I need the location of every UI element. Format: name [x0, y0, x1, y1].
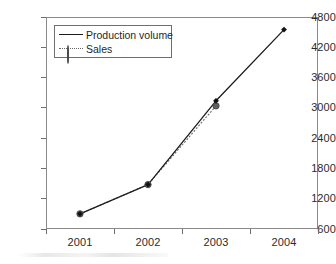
- legend-swatch-sales: [59, 43, 83, 55]
- sales-markers: [77, 103, 219, 217]
- legend-label-production-volume: Production volume: [83, 29, 173, 41]
- legend-swatch-production-volume: [59, 29, 83, 41]
- line-chart: 4800 4200 3600 3000 2400 1800 1200 600 2…: [0, 0, 336, 264]
- legend: Production volume Sales: [54, 25, 172, 58]
- scan-artifact: [18, 253, 168, 257]
- legend-label-sales: Sales: [83, 43, 112, 55]
- sales-line: [80, 106, 216, 214]
- legend-item-sales: Sales: [55, 42, 171, 56]
- legend-item-production-volume: Production volume: [55, 28, 171, 42]
